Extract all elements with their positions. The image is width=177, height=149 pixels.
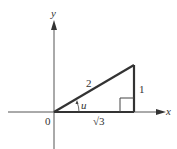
adjacent-label: √3 [93,116,105,127]
x-axis-label: x [166,106,171,117]
hypotenuse-label: 2 [86,78,92,89]
right-angle-marker [120,98,134,112]
angle-label: u [81,100,87,111]
triangle-diagram: y x 0 2 1 √3 u [0,0,177,149]
opposite-label: 1 [139,84,145,95]
origin-label: 0 [45,116,51,127]
angle-arrow-icon [76,100,79,104]
x-axis-arrow-icon [156,109,166,115]
hypotenuse [54,65,134,112]
y-axis-arrow-icon [51,20,57,30]
y-axis-label: y [51,8,56,19]
diagram-graphics [0,0,177,149]
